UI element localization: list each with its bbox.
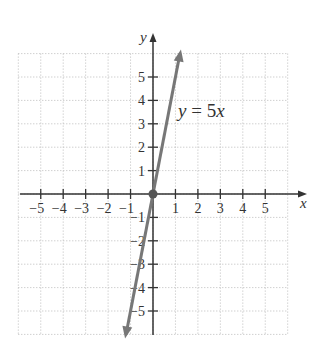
equation-mid: = 5	[186, 100, 216, 121]
x-tick-label: 1	[172, 201, 179, 216]
x-tick-label: 3	[217, 201, 224, 216]
equation-x: x	[215, 100, 225, 121]
y-tick-label: 4	[138, 93, 145, 108]
x-tick-label: −4	[52, 201, 67, 216]
y-tick-label: 1	[138, 164, 145, 179]
line-arrow-down-icon	[122, 326, 132, 339]
line-arrow-up-icon	[174, 50, 184, 63]
chart: −5−4−3−2−112345−5−4−3−2−112345 x y y = 5…	[0, 0, 327, 357]
x-axis-label: x	[299, 195, 307, 211]
y-tick-label: −4	[130, 281, 145, 296]
x-tick-label: 4	[239, 201, 246, 216]
x-tick-label: 5	[262, 201, 269, 216]
x-tick-label: −3	[74, 201, 89, 216]
y-axis-label: y	[138, 29, 147, 45]
equation-label: y = 5x	[176, 100, 225, 121]
y-tick-label: 5	[138, 70, 145, 85]
x-tick-label: −5	[29, 201, 44, 216]
equation-y: y	[176, 100, 187, 121]
y-axis-arrow-icon	[150, 33, 157, 42]
x-tick-label: −2	[97, 201, 112, 216]
y-tick-label: 3	[138, 117, 145, 132]
x-tick-label: 2	[194, 201, 201, 216]
origin-point	[149, 190, 158, 199]
y-tick-label: 2	[138, 140, 145, 155]
y-tick-label: −1	[130, 210, 145, 225]
